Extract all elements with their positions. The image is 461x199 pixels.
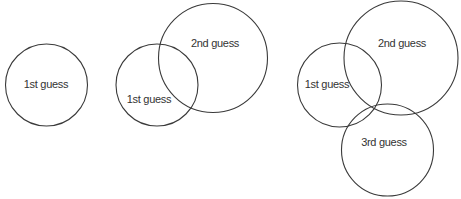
- circle-1st-guess: [116, 44, 198, 126]
- panel-step-2: 1st guess 2nd guess: [116, 4, 268, 127]
- guess-circles-diagram: 1st guess 1st guess 2nd guess 1st guess …: [0, 0, 461, 199]
- circle-2nd-guess: [344, 1, 458, 115]
- label-2nd-guess: 2nd guess: [378, 37, 427, 49]
- label-2nd-guess: 2nd guess: [191, 37, 240, 49]
- label-1st-guess: 1st guess: [127, 93, 172, 105]
- label-1st-guess: 1st guess: [305, 78, 350, 90]
- panel-step-3: 1st guess 2nd guess 3rd guess: [298, 1, 459, 196]
- label-1st-guess: 1st guess: [24, 78, 69, 90]
- label-3rd-guess: 3rd guess: [361, 136, 407, 148]
- panel-step-1: 1st guess: [6, 44, 88, 126]
- circle-3rd-guess: [342, 104, 434, 196]
- circle-2nd-guess: [159, 4, 268, 113]
